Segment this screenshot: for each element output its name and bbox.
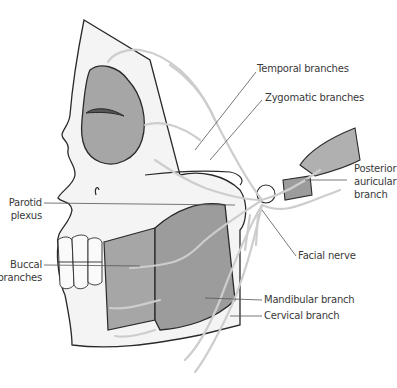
label-posterior-auricular-line1: Posterior — [354, 163, 396, 175]
label-posterior-auricular-line2: auricular — [354, 176, 396, 188]
masseter-muscle — [104, 228, 155, 330]
teeth — [58, 235, 102, 289]
facial-nerve-diagram — [0, 0, 397, 388]
label-facial-nerve: Facial nerve — [298, 250, 356, 262]
label-buccal-branches-line1: Buccal — [10, 259, 42, 271]
label-zygomatic-branches: Zygomatic branches — [265, 92, 364, 104]
ear — [300, 128, 360, 176]
label-mandibular-branch: Mandibular branch — [264, 294, 354, 306]
label-temporal-branches: Temporal branches — [257, 63, 349, 75]
label-parotid-plexus-line2: plexus — [11, 210, 42, 222]
label-cervical-branch: Cervical branch — [264, 310, 339, 322]
label-buccal-branches-line2: branches — [0, 272, 42, 284]
label-posterior-auricular-line3: branch — [354, 189, 388, 201]
label-parotid-plexus-line1: Parotid — [9, 197, 42, 209]
